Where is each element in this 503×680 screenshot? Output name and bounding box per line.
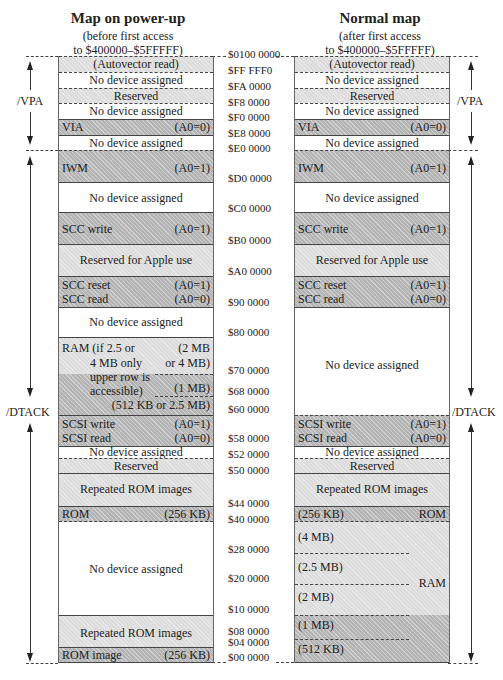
autovector-block: (Autovector read) xyxy=(295,56,449,72)
dtack-arrow-line xyxy=(30,164,31,390)
a0-label: (A0=1) xyxy=(175,161,210,176)
label: Repeated ROM images xyxy=(59,482,213,497)
address-label: $20 0000 xyxy=(228,572,269,584)
label: Reserved for Apple use xyxy=(59,253,213,268)
label: VIA xyxy=(62,120,83,135)
ram-divider xyxy=(155,374,213,375)
dtack-label: /DTACK xyxy=(452,405,496,420)
iwm-block: IWM(A0=1) xyxy=(295,150,449,182)
label: Repeated ROM images xyxy=(59,626,213,641)
right-subtitle-line1: (after first access xyxy=(300,29,460,43)
no-device-block: No device assigned xyxy=(59,446,213,458)
label: No device assigned xyxy=(59,104,213,119)
label: SCSI read xyxy=(62,431,111,446)
no-device-block: No device assigned xyxy=(295,307,449,415)
size-label: (256 KB) xyxy=(164,507,210,522)
label: SCSI write xyxy=(62,417,115,432)
left-subtitle-line1: (before first access xyxy=(48,29,208,43)
left-map-subtitle: (before first access to $400000–$5FFFFF) xyxy=(48,29,208,57)
address-label: $28 0000 xyxy=(228,543,269,555)
scc-reset-read-block: SCC reset(A0=1) SCC read(A0=0) xyxy=(59,276,213,307)
address-label: $10 0000 xyxy=(228,603,269,615)
address-label: $A0 0000 xyxy=(228,265,272,277)
a0-label: (A0=0) xyxy=(175,292,210,307)
address-label: $F8 0000 xyxy=(228,96,270,108)
arrow-down-icon xyxy=(27,388,33,397)
signal-boundary xyxy=(26,150,58,151)
scc-write-block: SCC write(A0=1) xyxy=(59,212,213,244)
address-label: $E8 0000 xyxy=(228,127,270,139)
ram-divider xyxy=(295,584,409,585)
label: No device assigned xyxy=(59,315,213,330)
label: Reserved for Apple use xyxy=(295,253,449,268)
address-label: $0100 0000 xyxy=(228,48,280,60)
arrow-down-icon xyxy=(468,388,474,397)
arrow-down-icon xyxy=(27,136,33,145)
ram-size: (512 KB) xyxy=(298,642,344,657)
label: No device assigned xyxy=(59,73,213,88)
label: No device assigned xyxy=(295,136,449,151)
a0-label: (A0=1) xyxy=(175,222,210,237)
address-label: $52 0000 xyxy=(228,448,269,460)
label: Reserved xyxy=(295,89,449,104)
label: ROM image xyxy=(62,648,122,663)
address-label: $E0 0000 xyxy=(228,142,270,154)
ram-label: 4 MB only xyxy=(90,356,142,371)
ram-size: or 4 MB) xyxy=(165,356,210,371)
vpa-arrow-line xyxy=(471,68,472,90)
ram-size: (2 MB) xyxy=(298,590,334,605)
label: No device assigned xyxy=(295,104,449,119)
repeated-rom-block: Repeated ROM images xyxy=(59,473,213,506)
address-label: $80 0000 xyxy=(228,326,269,338)
no-device-block: No device assigned xyxy=(59,103,213,119)
ram-label: RAM (if 2.5 or xyxy=(62,341,135,356)
no-device-block: No device assigned xyxy=(295,72,449,88)
ram-size: (1 MB) xyxy=(298,618,334,633)
label: SCC write xyxy=(298,222,348,237)
via-block: VIA(A0=0) xyxy=(59,119,213,135)
address-label: $FF FFF0 xyxy=(228,64,272,76)
label: No device assigned xyxy=(295,191,449,206)
ram-label: upper row is xyxy=(90,370,150,385)
size-label: (256 KB) xyxy=(298,507,344,522)
right-map-title: Normal map xyxy=(310,10,450,27)
label: No device assigned xyxy=(59,136,213,151)
label: Reserved xyxy=(59,89,213,104)
a0-label: (A0=1) xyxy=(175,417,210,432)
size-label: (256 KB) xyxy=(164,648,210,663)
a0-label: (A0=0) xyxy=(175,120,210,135)
label: No device assigned xyxy=(59,191,213,206)
address-label: $50 0000 xyxy=(228,464,269,476)
label: Reserved xyxy=(59,459,213,474)
reserved-block: Reserved xyxy=(295,458,449,473)
scc-reset-read-block: SCC reset(A0=1) SCC read(A0=0) xyxy=(295,276,449,307)
iwm-block: IWM(A0=1) xyxy=(59,150,213,182)
ram-divider xyxy=(295,639,409,640)
signal-boundary xyxy=(448,56,478,57)
label: SCC reset xyxy=(62,278,110,293)
address-tick xyxy=(212,662,226,663)
left-subtitle-line2: to $400000–$5FFFFF) xyxy=(48,43,208,57)
ram-divider xyxy=(155,396,213,397)
ram-size: (2 MB xyxy=(178,341,210,356)
no-device-block: No device assigned xyxy=(295,135,449,150)
address-label: $58 0000 xyxy=(228,432,269,444)
a0-label: (A0=1) xyxy=(175,278,210,293)
ram-label: accessible) xyxy=(90,384,143,399)
address-label: $60 0000 xyxy=(228,403,269,415)
label: No device assigned xyxy=(295,358,449,373)
dtack-arrow-line xyxy=(30,431,31,653)
a0-label: (A0=0) xyxy=(411,292,446,307)
label: SCSI write xyxy=(298,417,351,432)
autovector-block: (Autovector read) xyxy=(59,56,213,72)
signal-boundary xyxy=(26,56,58,57)
vpa-label: /VPA xyxy=(457,94,483,109)
a0-label: (A0=0) xyxy=(411,120,446,135)
ram-divider xyxy=(295,553,409,554)
reserved-block: Reserved xyxy=(295,88,449,103)
right-map-subtitle: (after first access to $400000–$5FFFFF) xyxy=(300,29,460,57)
address-label: $FA 0000 xyxy=(228,80,271,92)
scsi-block: SCSI write(A0=1) SCSI read(A0=0) xyxy=(59,415,213,446)
reserved-block: Reserved xyxy=(59,88,213,103)
label: IWM xyxy=(62,161,88,176)
